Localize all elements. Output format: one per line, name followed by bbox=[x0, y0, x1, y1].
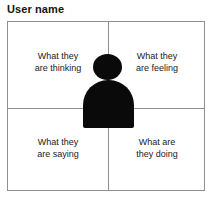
quadrant-thinking: What they are thinking bbox=[12, 51, 104, 74]
empathy-map-frame bbox=[7, 21, 205, 191]
quadrant-doing: What are they doing bbox=[112, 137, 202, 160]
empathy-map-diagram: User name What they are thinking What th… bbox=[0, 0, 215, 203]
quadrant-feeling: What they are feeling bbox=[112, 51, 202, 74]
page-title: User name bbox=[7, 3, 64, 16]
vertical-divider bbox=[108, 22, 109, 190]
quadrant-saying: What they are saying bbox=[12, 137, 104, 160]
horizontal-divider bbox=[8, 108, 204, 109]
